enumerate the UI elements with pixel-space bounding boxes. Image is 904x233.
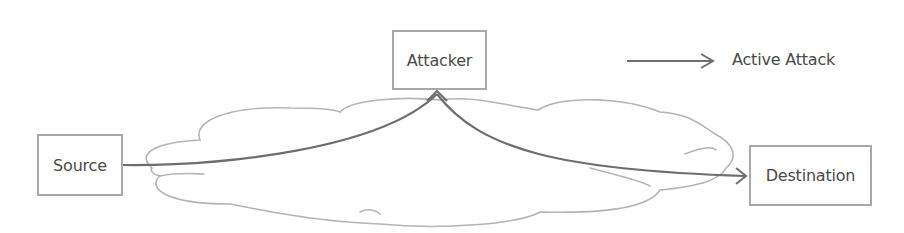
legend-active-attack-label: Active Attack bbox=[732, 50, 835, 69]
edge-source-to-attacker bbox=[122, 94, 437, 165]
attacker-node: Attacker bbox=[392, 30, 487, 90]
destination-node: Destination bbox=[749, 145, 872, 206]
network-cloud bbox=[146, 99, 733, 227]
source-label: Source bbox=[53, 156, 107, 175]
attacker-label: Attacker bbox=[407, 51, 472, 70]
destination-label: Destination bbox=[766, 166, 856, 185]
edge-attacker-to-destination bbox=[437, 94, 745, 176]
source-node: Source bbox=[37, 134, 123, 196]
